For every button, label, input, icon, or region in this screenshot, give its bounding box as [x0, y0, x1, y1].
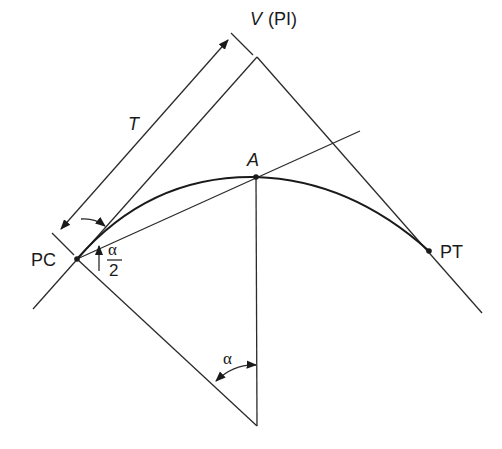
tangent-dimension-line	[61, 40, 228, 229]
chord-line	[77, 131, 360, 259]
curve-diagram: V (PI) T A PC PT α 2 α	[0, 0, 502, 449]
circular-curve	[77, 177, 429, 259]
pc-label: PC	[31, 250, 56, 270]
deflection-angle-arc	[81, 219, 105, 226]
vertex-label: V	[250, 9, 264, 29]
radius-a-line	[256, 177, 257, 426]
back-tangent-line	[33, 57, 257, 309]
half-angle-denominator: 2	[109, 261, 118, 280]
pc-point	[74, 256, 80, 262]
dimension-tick-top	[231, 33, 253, 55]
central-angle-arc	[216, 365, 256, 381]
tangent-length-label: T	[128, 114, 141, 134]
central-angle-label: α	[223, 349, 232, 368]
vertex-paren-label: (PI)	[268, 9, 297, 29]
midpoint-label: A	[246, 150, 259, 170]
pt-label: PT	[440, 242, 463, 262]
a-point	[253, 174, 259, 180]
radius-pc-line	[77, 259, 257, 426]
half-angle-numerator: α	[108, 240, 117, 259]
forward-tangent-line	[257, 57, 482, 313]
pt-point	[426, 248, 432, 254]
